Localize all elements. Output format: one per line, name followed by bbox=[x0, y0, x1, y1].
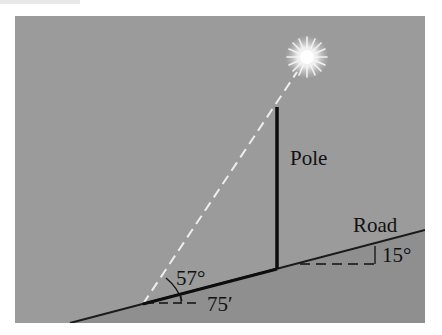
road-label: Road bbox=[353, 213, 398, 237]
distance-75-label: 75′ bbox=[207, 292, 233, 316]
sun-icon bbox=[285, 35, 329, 79]
angle-15-label: 15° bbox=[382, 243, 411, 267]
pole-label: Pole bbox=[290, 146, 327, 170]
angle-57-label: 57° bbox=[176, 266, 205, 290]
pole-on-slope-diagram: Pole Road 15° 57° 75′ bbox=[0, 0, 442, 335]
